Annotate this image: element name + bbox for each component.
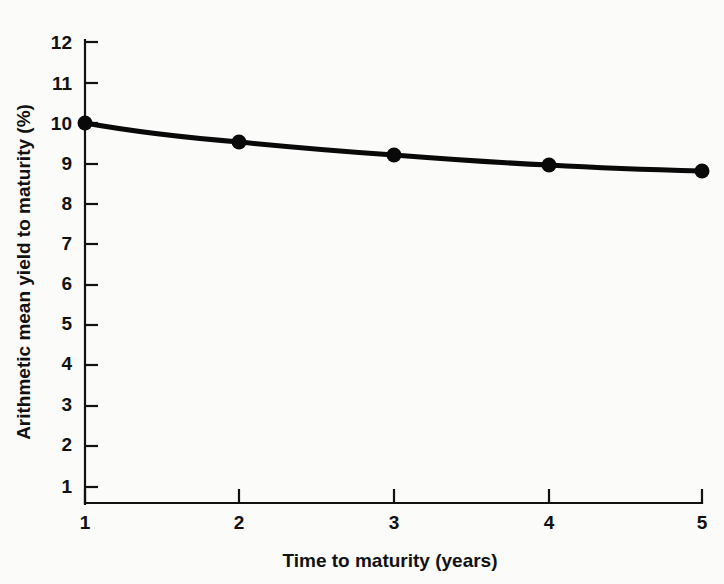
data-point-3 [387, 148, 402, 163]
x-axis-ticks [85, 489, 702, 503]
data-point-1 [78, 116, 93, 131]
x-tick-label: 1 [80, 512, 91, 533]
x-tick-label: 4 [544, 512, 555, 533]
y-axis-tick-labels: 12 11 10 9 8 7 6 5 4 3 2 1 [51, 32, 73, 497]
y-tick-label: 1 [61, 476, 72, 497]
y-tick-label: 11 [52, 73, 73, 94]
data-point-4 [542, 158, 557, 173]
figure-canvas: 12 11 10 9 8 7 6 5 4 3 2 1 [0, 0, 724, 584]
y-tick-label: 4 [61, 353, 72, 374]
y-tick-label: 5 [61, 313, 72, 334]
x-tick-label: 5 [697, 512, 708, 533]
y-tick-label: 12 [51, 32, 72, 53]
y-axis-ticks [85, 42, 98, 487]
data-point-2 [232, 135, 247, 150]
x-tick-label: 2 [234, 512, 245, 533]
x-axis-title: Time to maturity (years) [282, 550, 497, 571]
y-tick-label: 2 [61, 434, 72, 455]
y-tick-label: 7 [61, 233, 72, 254]
x-axis-tick-labels: 1 2 3 4 5 [80, 512, 708, 533]
series-line-arithmetic-mean-yield [85, 123, 702, 171]
y-tick-label: 3 [61, 394, 72, 415]
y-tick-label: 10 [51, 113, 72, 134]
y-tick-label: 6 [61, 273, 72, 294]
y-tick-label: 8 [61, 193, 72, 214]
x-tick-label: 3 [389, 512, 400, 533]
y-axis-title: Arithmetic mean yield to maturity (%) [13, 104, 34, 440]
data-point-5 [695, 164, 710, 179]
y-tick-label: 9 [61, 153, 72, 174]
line-chart: 12 11 10 9 8 7 6 5 4 3 2 1 [0, 0, 724, 584]
